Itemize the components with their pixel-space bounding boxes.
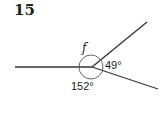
angle-49-label: 49° <box>105 59 122 71</box>
lower-right-ray <box>92 67 158 89</box>
angle-152-label: 152° <box>71 80 94 92</box>
angle-f-label: f <box>81 41 89 55</box>
angle-diagram: f 49° 152° <box>0 0 166 127</box>
